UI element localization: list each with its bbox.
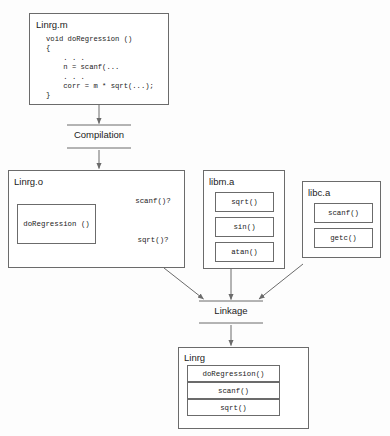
compilation-stage-label: Compilation [67,129,131,140]
arrow-object-to-linkage [164,268,204,299]
library-title-libm: libm.a [209,176,234,187]
library-title-libc: libc.a [308,187,330,198]
executable-row-doregression[interactable]: doRegression() [187,365,280,382]
unresolved-symbol-sqrt: sqrt()? [125,236,181,244]
library-symbol-libc-1[interactable]: getc() [314,228,373,248]
source-file-code: void doRegression () { . . . n = scanf(.… [46,35,166,101]
object-file-title: Linrg.o [14,176,43,187]
library-symbol-libm-1[interactable]: sin() [215,217,274,237]
diagram-canvas: Linrg.m void doRegression () { . . . n =… [0,0,390,436]
executable-row-sqrt[interactable]: sqrt() [187,399,280,416]
library-symbol-libc-0[interactable]: scanf() [314,203,373,223]
object-file-function-box[interactable]: doRegression () [17,204,96,244]
source-file-title: Linrg.m [36,19,68,30]
executable-row-scanf[interactable]: scanf() [187,382,280,399]
library-symbol-libm-2[interactable]: atan() [215,242,274,262]
executable-title: Linrg [184,352,205,363]
arrow-libc-to-linkage [259,264,303,299]
linkage-stage-label: Linkage [199,305,263,316]
library-symbol-libm-0[interactable]: sqrt() [215,192,274,212]
unresolved-symbol-scanf: scanf()? [125,197,181,205]
